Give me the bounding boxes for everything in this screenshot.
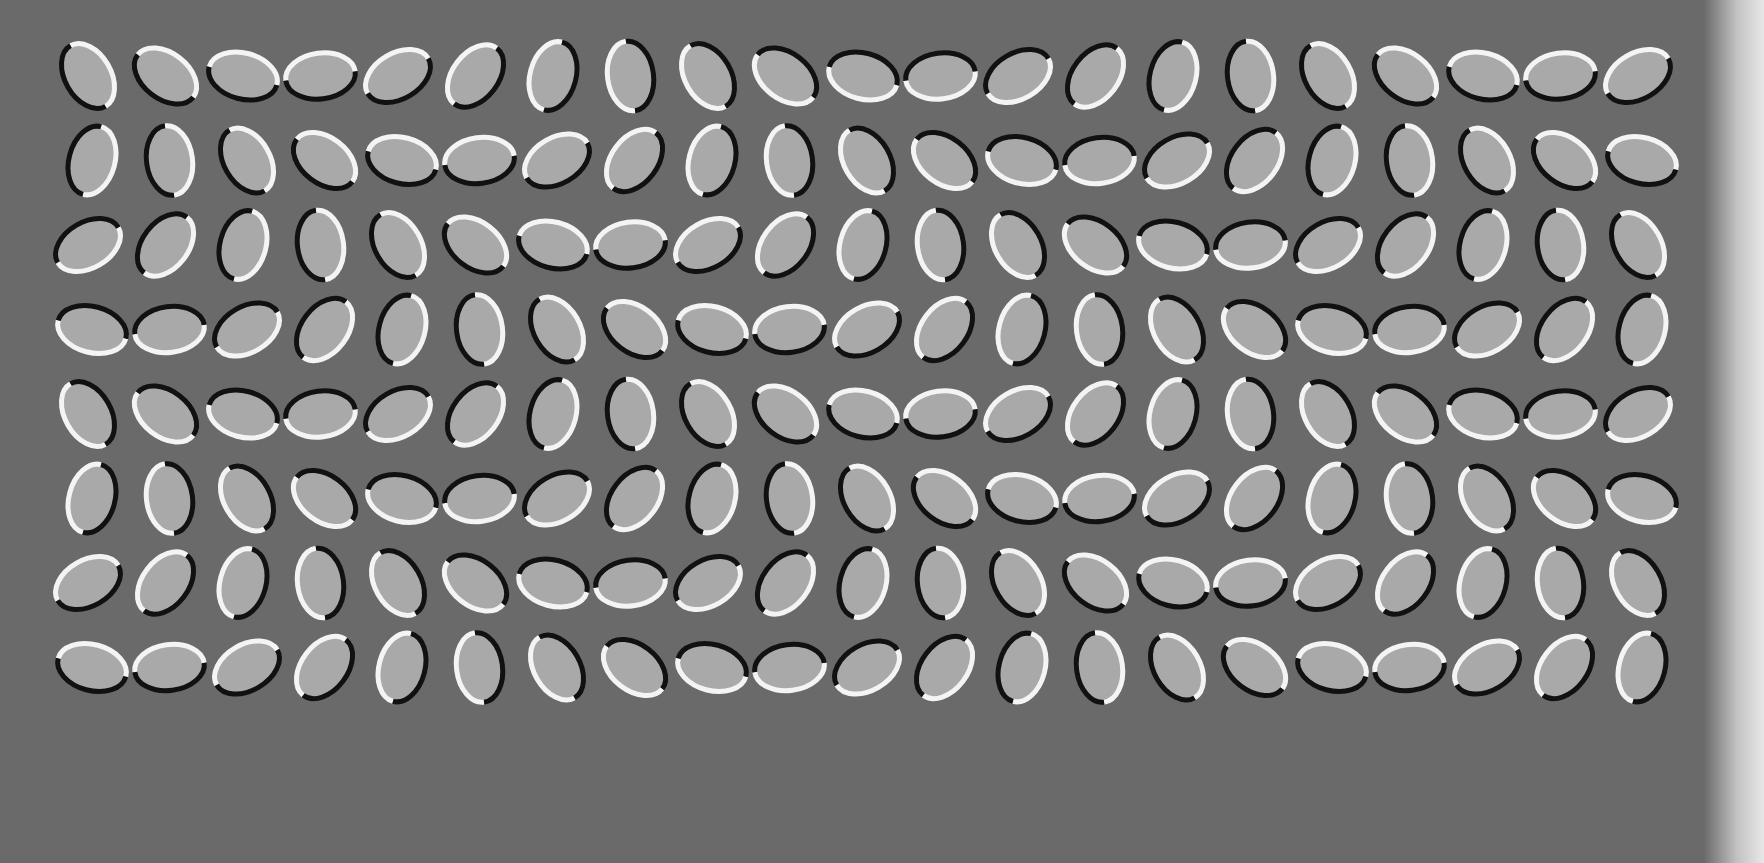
ellipse-element [603, 376, 658, 451]
ellipse-element [603, 38, 658, 113]
ellipse-element [283, 49, 358, 104]
ellipse-element [823, 45, 903, 108]
illusion-canvas: Rotating ellipses optical illusion [0, 0, 1764, 863]
ellipse-element [520, 288, 595, 372]
ellipse-element [1286, 208, 1370, 283]
ellipse-element [210, 457, 285, 541]
ellipse-element [672, 298, 752, 361]
ellipse-element [1602, 467, 1682, 530]
ellipse-element [1072, 630, 1127, 705]
ellipse-element [1056, 34, 1135, 118]
ellipse-element [1525, 288, 1604, 372]
ellipse-element [1523, 121, 1607, 200]
ellipse-element [210, 119, 285, 203]
ellipse-element [452, 630, 507, 705]
ellipse-element [61, 459, 124, 539]
ellipse-element [51, 34, 126, 118]
ellipse-element [982, 129, 1062, 192]
ellipse-element [832, 205, 895, 285]
ellipse-element [513, 214, 593, 277]
ellipse-element [976, 39, 1060, 114]
ellipse-element [1142, 374, 1205, 454]
ellipse-element [1056, 372, 1135, 456]
ellipse-element [976, 377, 1060, 452]
ellipse-element [1443, 45, 1523, 108]
ellipse-element [283, 459, 367, 538]
ellipse-element [452, 292, 507, 367]
ellipse-element [746, 203, 825, 287]
ellipse-element [671, 372, 746, 456]
ellipse-element [361, 203, 436, 287]
ellipse-element [126, 541, 205, 625]
ellipse-element [126, 203, 205, 287]
ellipse-element [1452, 543, 1515, 623]
ellipse-element [1533, 545, 1588, 620]
ellipse-element [832, 543, 895, 623]
ellipse-element [1292, 298, 1372, 361]
ellipse-element [671, 34, 746, 118]
ellipse-element [1291, 34, 1366, 118]
ellipse-element [903, 459, 987, 538]
ellipse-element [1301, 459, 1364, 539]
ellipse-element [1601, 203, 1676, 287]
ellipse-element [1142, 36, 1205, 116]
ellipse-element [371, 628, 434, 708]
ellipse-element [52, 298, 132, 361]
ellipse-element [666, 546, 750, 621]
ellipse-element [1072, 292, 1127, 367]
ellipse-element [46, 546, 130, 621]
ellipse-element [142, 461, 197, 536]
ellipse-element [1140, 626, 1215, 710]
ellipse-element [293, 207, 348, 282]
ellipse-element [1525, 626, 1604, 710]
ellipse-element [762, 461, 817, 536]
ellipse-element [132, 640, 207, 695]
ellipse-element [361, 541, 436, 625]
ellipse-element [1301, 121, 1364, 201]
ellipse-element [752, 640, 827, 695]
ellipse-element [744, 374, 828, 453]
ellipse-element [593, 218, 668, 273]
ellipse-element [283, 387, 358, 442]
ellipse-element [434, 543, 518, 622]
ellipse-element [830, 119, 905, 203]
ellipse-element [672, 636, 752, 699]
ellipse-element [991, 628, 1054, 708]
ellipse-element [1292, 636, 1372, 699]
ellipse-element [371, 290, 434, 370]
ellipse-element [981, 541, 1056, 625]
ellipse-element [595, 457, 674, 541]
ellipse-element [132, 302, 207, 357]
ellipse-element [903, 49, 978, 104]
ellipse-element [283, 121, 367, 200]
ellipse-element [1452, 205, 1515, 285]
ellipse-element [1054, 205, 1138, 284]
ellipse-element [203, 383, 283, 446]
ellipse-element [1133, 552, 1213, 615]
ellipse-element [903, 387, 978, 442]
ellipse-element [1601, 541, 1676, 625]
ellipse-element [1596, 377, 1680, 452]
ellipse-element [681, 459, 744, 539]
ellipse-element [1611, 628, 1674, 708]
ellipse-element [124, 36, 208, 115]
ellipse-element [825, 630, 909, 705]
ellipse-element [522, 36, 585, 116]
ellipse-element [666, 208, 750, 283]
ellipse-element [1291, 372, 1366, 456]
ellipse-element [205, 630, 289, 705]
page-edge-highlight [1704, 0, 1764, 863]
ellipse-element [1523, 387, 1598, 442]
ellipse-element [212, 205, 275, 285]
ellipse-element [830, 457, 905, 541]
ellipse-element [1223, 376, 1278, 451]
ellipse-element [991, 290, 1054, 370]
ellipse-element [1372, 640, 1447, 695]
ellipse-element [913, 207, 968, 282]
ellipse-element [1135, 123, 1219, 198]
ellipse-element [520, 626, 595, 710]
ellipse-element [46, 208, 130, 283]
ellipse-element [1213, 290, 1297, 369]
ellipse-element [205, 292, 289, 367]
ellipse-element [293, 545, 348, 620]
